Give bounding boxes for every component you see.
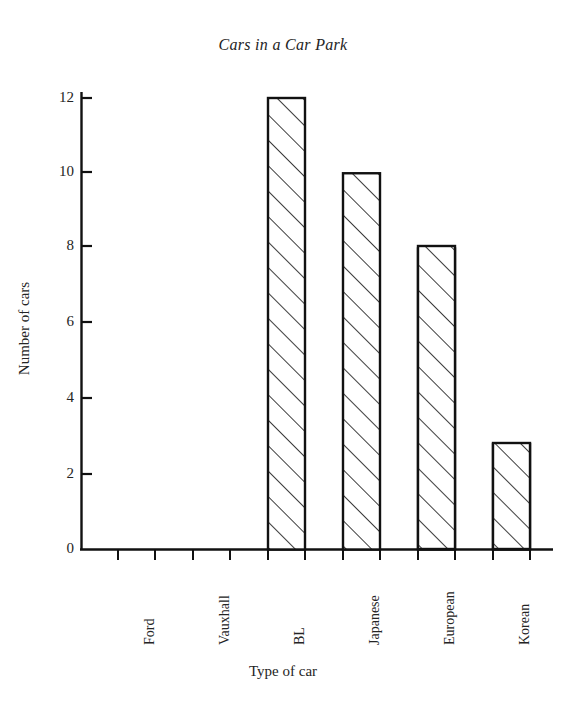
bar-korean (493, 443, 530, 549)
y-axis-ticks (82, 98, 93, 474)
y-tick-label-8: 8 (40, 238, 74, 253)
bar-chart-figure: Cars in a Car Park Number of cars (0, 0, 566, 705)
bar-european (418, 246, 455, 549)
y-tick-label-4: 4 (40, 390, 74, 405)
bar-ford (268, 98, 305, 550)
x-category-label-vauxhall: Vauxhall (217, 595, 233, 645)
x-axis-title: Type of car (0, 663, 566, 680)
axis-lines (80, 92, 553, 550)
y-tick-label-0: 0 (40, 541, 74, 556)
y-tick-label-2: 2 (40, 466, 74, 481)
plot-area (0, 0, 566, 705)
x-axis-ticks (118, 550, 530, 561)
bar-series (268, 98, 530, 550)
x-category-label-japanese: Japanese (367, 595, 383, 645)
x-category-label-bl: BL (292, 627, 308, 645)
x-category-label-ford: Ford (142, 619, 158, 645)
x-category-label-korean: Korean (517, 604, 533, 645)
x-category-label-european: European (442, 591, 458, 645)
y-tick-label-6: 6 (40, 314, 74, 329)
bar-vauxhall (343, 173, 380, 549)
y-tick-label-12: 12 (40, 90, 74, 105)
y-tick-label-10: 10 (40, 164, 74, 179)
